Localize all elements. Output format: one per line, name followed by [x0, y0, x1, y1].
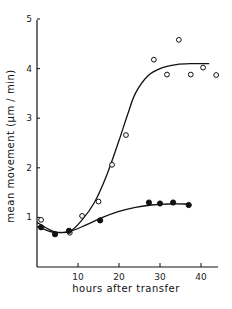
x-axis-title: hours after transfer	[72, 283, 180, 294]
fit-curve	[37, 204, 189, 233]
x-tick-label: 10	[72, 272, 84, 282]
open-data-point	[201, 65, 206, 70]
x-tick-label: 20	[113, 272, 125, 282]
x-tick-label: 40	[195, 272, 207, 282]
filled-data-point	[157, 201, 162, 206]
filled-data-point	[146, 200, 151, 205]
y-tick-label: 5	[26, 14, 32, 24]
filled-data-point	[186, 202, 191, 207]
data-points	[39, 37, 219, 236]
open-data-point	[39, 217, 44, 222]
y-ticks: 12345	[26, 14, 40, 222]
open-data-point	[214, 73, 219, 78]
open-data-point	[80, 214, 85, 219]
y-tick-label: 2	[26, 163, 32, 173]
filled-data-point	[39, 225, 44, 230]
y-tick-label: 1	[26, 212, 32, 222]
filled-data-point	[98, 218, 103, 223]
open-data-point	[96, 199, 101, 204]
y-tick-label: 4	[26, 64, 32, 74]
filled-data-point	[52, 232, 57, 237]
open-data-point	[176, 37, 181, 42]
open-data-point	[188, 72, 193, 77]
filled-data-point	[66, 228, 71, 233]
open-data-point	[124, 133, 129, 138]
fit-curve	[37, 64, 209, 233]
open-data-point	[110, 162, 115, 167]
axes: 12345 10203040	[26, 14, 218, 282]
x-tick-label: 30	[154, 272, 166, 282]
fit-curves	[37, 64, 209, 233]
chart: 12345 10203040 hours after transfer mean…	[0, 0, 232, 309]
filled-data-point	[171, 200, 176, 205]
y-tick-label: 3	[26, 113, 32, 123]
open-data-point	[165, 72, 170, 77]
x-ticks: 10203040	[72, 263, 207, 282]
open-data-point	[151, 57, 156, 62]
y-axis-title: mean movement (μm / min)	[5, 69, 16, 222]
